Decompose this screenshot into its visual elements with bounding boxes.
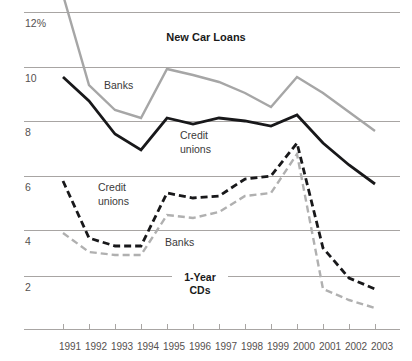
x-tick-label-1993: 1993 <box>111 341 134 352</box>
annotation-cds-credit-unions: Credit unions <box>96 180 144 211</box>
x-tick-label-1995: 1995 <box>163 341 186 352</box>
chart-container: 12% 10 8 6 4 2 New Car Loans Banks <box>0 0 412 361</box>
group-label-cds-line1: 1-Year <box>184 271 216 283</box>
annotation-cds-group: 1-Year CDs <box>184 271 216 296</box>
series-label-loans-banks: Banks <box>104 79 133 91</box>
y-tick-label-4: 4 <box>25 235 31 247</box>
page-title: New Car Loans <box>166 31 245 43</box>
y-tick-label-12: 12% <box>25 17 46 29</box>
y-tick-label-10: 10 <box>25 72 37 84</box>
x-tick-label-1996: 1996 <box>189 341 212 352</box>
x-tick-label-1998: 1998 <box>241 341 264 352</box>
series-label-cds-credit-unions-line1: Credit <box>98 181 126 193</box>
x-tick-label-2002: 2002 <box>345 341 368 352</box>
x-axis-labels: 1991 1992 1993 1994 1995 1996 1997 1998 … <box>59 341 394 352</box>
line-cds-credit-unions <box>63 143 375 289</box>
line-chart: 12% 10 8 6 4 2 New Car Loans Banks <box>0 0 412 361</box>
chart-title-group: New Car Loans <box>147 28 265 44</box>
x-tick-label-1992: 1992 <box>85 341 108 352</box>
y-tick-label-8: 8 <box>25 126 31 138</box>
series-label-cds-credit-unions-line2: unions <box>98 195 129 207</box>
x-tick-label-1991: 1991 <box>59 341 82 352</box>
series-label-loans-credit-unions-line1: Credit <box>180 129 208 141</box>
series-cds-credit-unions <box>63 143 375 289</box>
x-tick-label-1997: 1997 <box>215 341 238 352</box>
group-label-cds-line2: CDs <box>189 284 210 296</box>
x-tick-label-1999: 1999 <box>267 341 290 352</box>
annotation-cds-banks: Banks <box>163 235 207 250</box>
x-tick-label-2000: 2000 <box>293 341 316 352</box>
series-label-cds-banks: Banks <box>165 236 194 248</box>
y-tick-label-2: 2 <box>25 281 31 293</box>
line-loans-banks <box>63 0 375 131</box>
series-new-car-loans-banks <box>63 0 375 131</box>
series-label-loans-credit-unions-line2: unions <box>180 143 211 155</box>
y-tick-label-6: 6 <box>25 181 31 193</box>
x-tick-label-1994: 1994 <box>137 341 160 352</box>
x-axis <box>24 324 400 330</box>
x-tick-label-2003: 2003 <box>371 341 394 352</box>
y-axis-labels: 12% 10 8 6 4 2 <box>25 17 46 293</box>
annotation-loans-credit-unions: Credit unions <box>178 128 224 158</box>
annotation-loans-banks: Banks <box>102 78 144 92</box>
x-tick-label-2001: 2001 <box>319 341 342 352</box>
